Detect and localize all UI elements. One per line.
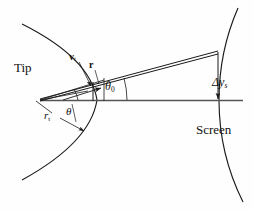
tip-label: Tip xyxy=(14,61,32,74)
trajectory-ray-lower xyxy=(40,54,218,101)
v-subscript: t xyxy=(74,55,76,62)
screen-label: Screen xyxy=(196,123,231,136)
tip-surface-arc xyxy=(22,24,97,180)
r-t-leader-arrow xyxy=(60,118,84,131)
theta-angle-label: θ xyxy=(66,106,71,117)
tip-radius-label: rt xyxy=(44,110,50,122)
theta-leader xyxy=(72,104,76,122)
figure-canvas: Tip Screen vt r rt θ θ0 Δys xyxy=(0,0,254,210)
delta-y-subscript: s xyxy=(224,81,227,90)
r-symbol: r xyxy=(89,59,93,70)
r-t-subscript: t xyxy=(48,115,50,122)
velocity-tangential-label: vt xyxy=(69,52,76,63)
r-vector-label: r xyxy=(89,60,93,70)
theta-symbol: θ xyxy=(66,105,71,117)
theta0-subscript: 0 xyxy=(111,85,115,94)
theta-zero-angle-label: θ0 xyxy=(105,80,115,93)
delta-y-screen-label: Δys xyxy=(212,76,227,89)
diagram-svg xyxy=(0,0,254,210)
screen-surface-arc xyxy=(219,8,243,202)
theta0-angle-arc xyxy=(124,78,127,100)
delta-y-symbol: Δy xyxy=(212,75,224,89)
